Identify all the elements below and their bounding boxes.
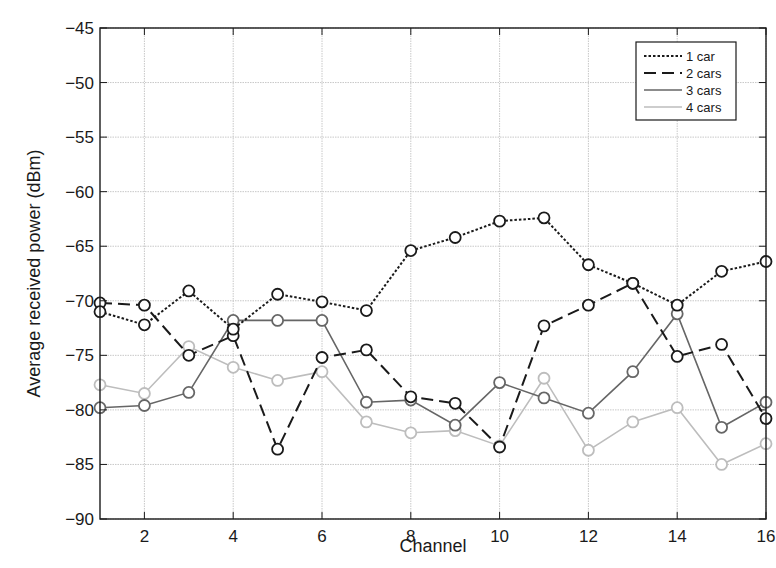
data-point-marker	[583, 408, 594, 419]
legend: 1 car2 cars3 cars4 cars	[636, 42, 736, 120]
legend-label: 1 car	[686, 49, 716, 64]
data-point-marker	[583, 259, 594, 270]
data-point-marker	[716, 266, 727, 277]
data-point-marker	[405, 427, 416, 438]
data-point-marker	[183, 285, 194, 296]
data-point-marker	[361, 305, 372, 316]
data-point-marker	[716, 339, 727, 350]
y-tick-label: −45	[65, 19, 94, 38]
data-point-marker	[228, 362, 239, 373]
series-line	[100, 218, 766, 329]
x-tick-label: 2	[140, 527, 149, 546]
y-axis-tick-labels: −45−50−55−60−65−70−75−80−85−90	[65, 19, 94, 529]
data-point-marker	[672, 402, 683, 413]
data-point-marker	[272, 444, 283, 455]
data-point-marker	[361, 397, 372, 408]
series-line	[100, 283, 766, 449]
data-point-marker	[627, 366, 638, 377]
legend-label: 3 cars	[686, 83, 722, 98]
data-point-marker	[450, 420, 461, 431]
data-point-marker	[450, 398, 461, 409]
data-point-marker	[672, 300, 683, 311]
x-tick-label: 6	[317, 527, 326, 546]
series-2-cars	[95, 278, 772, 455]
data-point-marker	[539, 320, 550, 331]
y-tick-label: −80	[65, 401, 94, 420]
data-point-marker	[183, 387, 194, 398]
data-point-marker	[450, 232, 461, 243]
y-tick-label: −85	[65, 455, 94, 474]
x-tick-label: 4	[228, 527, 237, 546]
data-point-marker	[183, 350, 194, 361]
data-point-marker	[317, 296, 328, 307]
x-tick-label: 12	[579, 527, 598, 546]
x-tick-label: 14	[668, 527, 687, 546]
data-point-marker	[405, 245, 416, 256]
y-tick-label: −55	[65, 128, 94, 147]
x-tick-label: 16	[757, 527, 776, 546]
data-point-marker	[716, 422, 727, 433]
data-point-marker	[583, 300, 594, 311]
y-tick-label: −65	[65, 237, 94, 256]
data-point-marker	[139, 388, 150, 399]
y-tick-label: −70	[65, 292, 94, 311]
y-tick-label: −50	[65, 74, 94, 93]
data-point-marker	[139, 300, 150, 311]
series-3-cars	[95, 308, 772, 432]
data-point-marker	[272, 289, 283, 300]
series-line	[100, 347, 766, 465]
data-point-marker	[139, 400, 150, 411]
data-series	[95, 212, 772, 470]
data-point-marker	[361, 344, 372, 355]
data-point-marker	[627, 278, 638, 289]
x-axis-title: Channel	[399, 536, 466, 556]
data-point-marker	[361, 416, 372, 427]
data-point-marker	[228, 324, 239, 335]
data-point-marker	[539, 373, 550, 384]
y-tick-label: −60	[65, 183, 94, 202]
series-1-car	[95, 212, 772, 334]
data-point-marker	[494, 216, 505, 227]
data-point-marker	[317, 352, 328, 363]
data-point-marker	[272, 315, 283, 326]
data-point-marker	[672, 351, 683, 362]
y-tick-label: −75	[65, 346, 94, 365]
x-tick-label: 10	[490, 527, 509, 546]
data-point-marker	[494, 441, 505, 452]
data-point-marker	[317, 366, 328, 377]
data-point-marker	[405, 391, 416, 402]
legend-label: 2 cars	[686, 66, 722, 81]
data-point-marker	[139, 319, 150, 330]
data-point-marker	[272, 375, 283, 386]
y-tick-label: −90	[65, 510, 94, 529]
data-point-marker	[539, 212, 550, 223]
series-4-cars	[95, 341, 772, 470]
y-axis-title: Average received power (dBm)	[24, 150, 44, 398]
data-point-marker	[494, 377, 505, 388]
line-chart: −45−50−55−60−65−70−75−80−85−90 246810121…	[0, 0, 776, 568]
data-point-marker	[583, 445, 594, 456]
data-point-marker	[716, 459, 727, 470]
legend-label: 4 cars	[686, 100, 722, 115]
data-point-marker	[627, 416, 638, 427]
data-point-marker	[539, 392, 550, 403]
data-point-marker	[317, 315, 328, 326]
